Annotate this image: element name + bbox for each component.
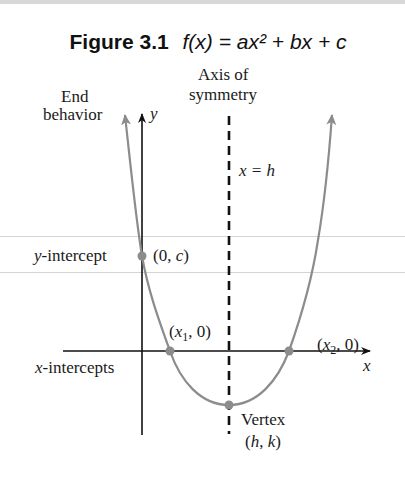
y-intercept-coords: (0, c) — [153, 246, 189, 265]
x-axis-label: x — [363, 356, 371, 375]
x1-intercept-point — [166, 347, 175, 356]
vertex-label: Vertex — [241, 410, 285, 429]
y-axis-label: y — [150, 104, 158, 123]
x1-intercept-coords: (x1, 0) — [169, 322, 211, 347]
end-behavior-label-2: behavior — [43, 105, 102, 124]
parabola-right-branch — [229, 115, 332, 405]
axis-of-symmetry-label-2: symmetry — [189, 85, 257, 104]
vertex-point — [225, 401, 234, 410]
y-intercept-label: y-intercept — [34, 246, 107, 265]
y-intercept-point — [138, 252, 147, 261]
axis-of-symmetry-label-1: Axis of — [198, 65, 249, 84]
symmetry-equation-label: x = h — [239, 161, 275, 180]
x2-intercept-coords: (x2, 0) — [317, 335, 359, 360]
x-intercepts-label: x-intercepts — [35, 358, 114, 377]
end-behavior-label-1: End — [61, 87, 88, 106]
x2-intercept-point — [285, 347, 294, 356]
vertex-coords: (h, k) — [245, 432, 281, 451]
